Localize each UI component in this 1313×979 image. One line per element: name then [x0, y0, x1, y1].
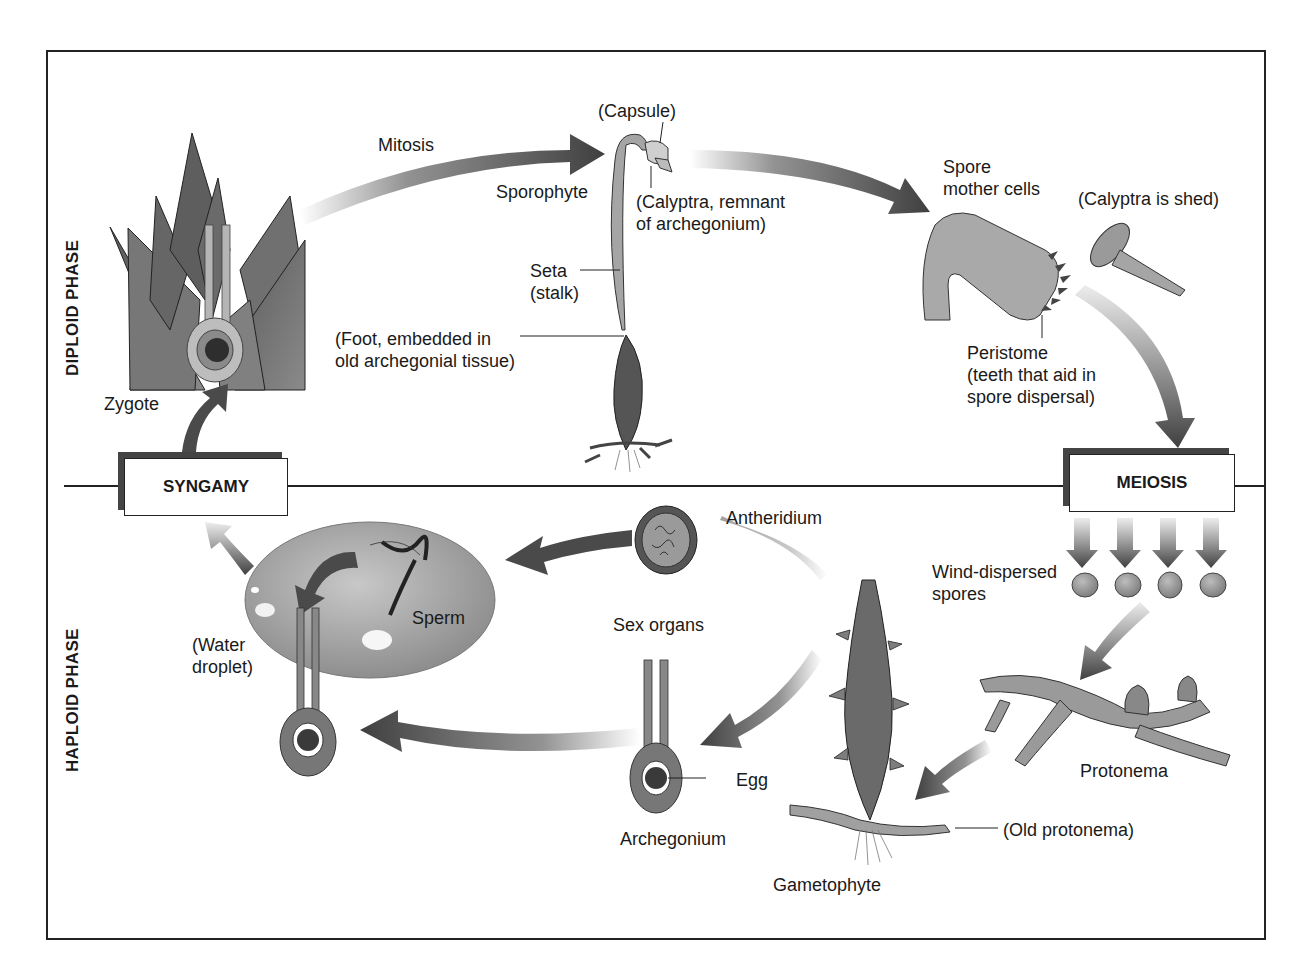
protonema-label: Protonema [1080, 760, 1168, 782]
spore-icon [1072, 573, 1098, 597]
zygote-shoot-illustration [110, 133, 305, 390]
spore-mother-cells-label: Spore mother cells [943, 156, 1040, 200]
mitosis-arrow [300, 134, 605, 225]
spore-icon [1200, 573, 1226, 597]
wind-dispersed-spores [1072, 572, 1226, 598]
meiosis-box: MEIOSIS [1069, 454, 1235, 512]
calyptra-shed-label: (Calyptra is shed) [1078, 188, 1219, 210]
egg-label: Egg [736, 769, 768, 791]
mitosis-label: Mitosis [378, 134, 434, 156]
calyptra-remnant-label: (Calyptra, remnant of archegonium) [636, 191, 785, 235]
antheridium-illustration [635, 506, 697, 574]
spore-icon [1115, 573, 1141, 597]
capsule-label: (Capsule) [598, 100, 676, 122]
zygote-label: Zygote [104, 393, 159, 415]
haploid-phase-label: HAPLOID PHASE [63, 628, 83, 772]
archegonium-label: Archegonium [620, 828, 726, 850]
syngamy-box: SYNGAMY [124, 458, 288, 516]
spore-icon [1158, 572, 1182, 598]
gametophyte-label: Gametophyte [773, 874, 881, 896]
wind-dispersed-spores-label: Wind-dispersed spores [932, 561, 1057, 605]
meiosis-spore-arrows [1066, 518, 1227, 568]
droplet-to-syngamy-arrow [205, 522, 254, 575]
spores-to-protonema-arrow [1080, 602, 1150, 680]
antheridium-label: Antheridium [726, 507, 822, 529]
archegonium-to-fertilization-arrow [360, 710, 640, 752]
water-droplet-illustration [245, 522, 495, 678]
protonema-to-gametophyte-arrow [915, 740, 992, 800]
foot-label: (Foot, embedded in old archegonial tissu… [335, 328, 515, 372]
zygote-cell-icon [205, 338, 229, 362]
sex-organs-label: Sex organs [613, 614, 704, 636]
gametophyte-to-archegonium-arrow [700, 650, 822, 748]
egg-icon [645, 767, 667, 789]
seta-label: Seta (stalk) [530, 260, 579, 304]
syngamy-to-zygote-arrow [182, 384, 228, 452]
sperm-label: Sperm [412, 607, 465, 629]
gametophyte-illustration [790, 580, 998, 865]
capsule-peristome-illustration [923, 213, 1071, 338]
sporophyte-label: Sporophyte [496, 181, 588, 203]
peristome-label: Peristome (teeth that aid in spore dispe… [967, 342, 1096, 408]
diploid-phase-label: DIPLOID PHASE [63, 240, 83, 376]
old-protonema-label: (Old protonema) [1003, 819, 1134, 841]
water-droplet-label: (Water droplet) [192, 634, 253, 678]
protonema-illustration [980, 675, 1230, 766]
antheridium-to-droplet-arrow [505, 530, 632, 575]
calyptra-shed-illustration [1083, 217, 1185, 296]
archegonium-illustration [630, 660, 706, 813]
